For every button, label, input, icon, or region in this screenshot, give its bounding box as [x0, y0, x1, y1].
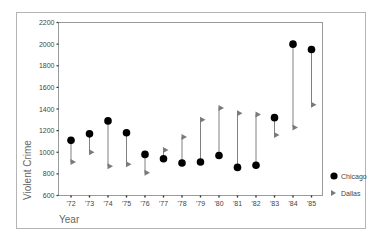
- x-axis-title: Year: [59, 214, 80, 225]
- chicago-point: [197, 158, 205, 166]
- x-tick-label: '85: [307, 200, 316, 207]
- x-tick-label: '78: [177, 200, 186, 207]
- x-tick-label: '76: [140, 200, 149, 207]
- y-tick-label: 1000: [39, 149, 55, 156]
- x-tick-label: '72: [66, 200, 75, 207]
- chicago-point: [271, 114, 279, 122]
- y-tick-label: 1400: [39, 106, 55, 113]
- y-tick-label: 1600: [39, 84, 55, 91]
- y-tick-label: 2200: [39, 19, 55, 26]
- chicago-point: [141, 151, 149, 159]
- plot-area: [59, 23, 323, 196]
- y-tick-label: 600: [43, 192, 55, 199]
- x-tick-label: '79: [196, 200, 205, 207]
- dumbbell-chart: 6008001000120014001600180020002200 '72'7…: [0, 0, 383, 240]
- chicago-point: [215, 152, 223, 160]
- x-tick-label: '75: [122, 200, 131, 207]
- legend-label-dallas: Dallas: [341, 190, 361, 197]
- x-tick-label: '73: [85, 200, 94, 207]
- chicago-marker-icon: [330, 172, 337, 179]
- y-tick-label: 2000: [39, 41, 55, 48]
- x-tick-label: '82: [251, 200, 260, 207]
- chicago-point: [67, 137, 75, 145]
- x-tick-label: '74: [103, 200, 112, 207]
- x-tick-label: '81: [233, 200, 242, 207]
- y-tick-label: 1200: [39, 127, 55, 134]
- chicago-point: [234, 164, 242, 172]
- legend-label-chicago: Chicago: [341, 173, 367, 181]
- x-tick-label: '83: [270, 200, 279, 207]
- chicago-point: [123, 129, 131, 137]
- chicago-point: [104, 117, 112, 125]
- chicago-point: [289, 40, 297, 48]
- y-axis-title: Violent Crime: [22, 140, 33, 200]
- chicago-point: [252, 161, 260, 169]
- chicago-point: [178, 159, 186, 167]
- x-tick-label: '77: [159, 200, 168, 207]
- y-tick-label: 800: [43, 170, 55, 177]
- x-tick-label: '80: [214, 200, 223, 207]
- y-tick-label: 1800: [39, 62, 55, 69]
- chicago-point: [86, 130, 94, 138]
- x-tick-label: '84: [288, 200, 297, 207]
- chicago-point: [160, 155, 168, 163]
- chicago-point: [308, 46, 316, 54]
